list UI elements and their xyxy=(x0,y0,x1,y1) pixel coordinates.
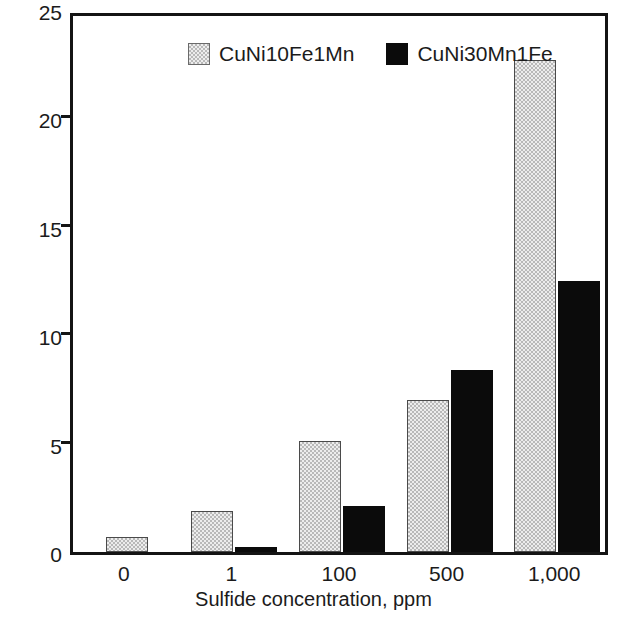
y-tick xyxy=(61,115,73,118)
y-tick-label: 15 xyxy=(20,219,62,240)
legend-label-series-a: CuNi10Fe1Mn xyxy=(219,42,354,66)
bar-100-series-a xyxy=(299,441,341,552)
x-tick-label: 1 xyxy=(226,562,238,586)
y-tick-label: 0 xyxy=(20,544,62,565)
bar-0-series-a xyxy=(106,537,148,552)
y-tick xyxy=(61,224,73,227)
y-tick-label: 10 xyxy=(20,327,62,348)
legend-item-series-b: CuNi30Mn1Fe xyxy=(386,42,552,66)
chart-figure: Corrosion rate, mm/a Sulfide concentrati… xyxy=(0,0,627,617)
x-tick-label: 0 xyxy=(118,562,130,586)
plot-frame xyxy=(70,13,608,555)
y-tick-label: 5 xyxy=(20,436,62,457)
bar-500-series-b xyxy=(451,370,493,552)
bar-500-series-a xyxy=(407,400,449,552)
y-tick xyxy=(61,332,73,335)
bar-1-series-b xyxy=(235,547,277,552)
hatched-swatch-icon xyxy=(188,43,210,65)
y-tick-label: 20 xyxy=(20,110,62,131)
bar-1000-series-b xyxy=(558,281,600,552)
bar-1-series-a xyxy=(191,511,233,552)
y-tick-label: 25 xyxy=(20,2,62,23)
bar-100-series-b xyxy=(343,506,385,552)
chart-legend: CuNi10Fe1Mn CuNi30Mn1Fe xyxy=(188,42,553,66)
legend-label-series-b: CuNi30Mn1Fe xyxy=(417,42,552,66)
x-axis-title: Sulfide concentration, ppm xyxy=(0,588,627,611)
bar-1000-series-a xyxy=(514,60,556,552)
black-swatch-icon xyxy=(386,43,408,65)
plot-area xyxy=(73,16,605,552)
x-tick-label: 100 xyxy=(321,562,356,586)
legend-item-series-a: CuNi10Fe1Mn xyxy=(188,42,354,66)
x-tick-label: 1,000 xyxy=(528,562,581,586)
y-tick xyxy=(61,441,73,444)
x-tick-label: 500 xyxy=(429,562,464,586)
